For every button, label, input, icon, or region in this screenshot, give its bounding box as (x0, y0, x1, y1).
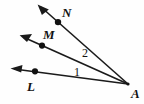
point-m-dot (39, 43, 45, 49)
ray-al-arrowhead (11, 65, 23, 73)
point-label-n: N (61, 5, 72, 20)
figure-canvas: N M L A 2 1 (0, 0, 144, 104)
ray-an-group (38, 4, 128, 84)
point-label-m: M (42, 27, 55, 42)
geometry-figure: N M L A 2 1 (0, 0, 144, 104)
point-label-l: L (26, 79, 35, 94)
angle-label-1: 1 (74, 65, 80, 79)
point-l-dot (32, 68, 38, 74)
point-n-dot (55, 19, 61, 25)
angle-label-2: 2 (82, 46, 88, 60)
vertex-a-dot (126, 82, 129, 85)
point-label-a: A (130, 86, 140, 101)
